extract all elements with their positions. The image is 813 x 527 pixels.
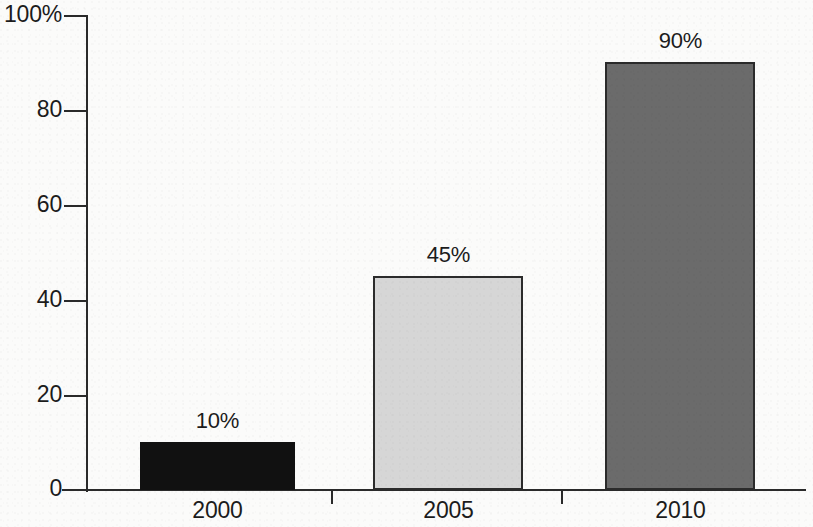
y-tick-20	[64, 395, 86, 397]
y-tick-0	[64, 489, 86, 491]
y-tick-80	[64, 110, 86, 112]
y-tick-label-60: 60	[2, 193, 62, 216]
bar-2005[interactable]	[373, 276, 523, 490]
y-tick-60	[64, 205, 86, 207]
x-tick-separator-2	[561, 491, 563, 504]
y-tick-label-0: 0	[2, 477, 62, 500]
y-tick-label-80: 80	[2, 98, 62, 121]
bar-2000[interactable]	[140, 442, 295, 490]
y-tick-40	[64, 300, 86, 302]
bar-2010[interactable]	[605, 62, 755, 490]
y-tick-100	[64, 15, 86, 17]
bar-label-2005: 45%	[391, 243, 506, 267]
bar-label-2010: 90%	[623, 29, 738, 53]
y-tick-label-40: 40	[2, 288, 62, 311]
y-tick-label-20: 20	[2, 383, 62, 406]
x-tick-label-2000: 2000	[160, 498, 275, 523]
x-tick-label-2010: 2010	[623, 498, 738, 523]
y-tick-label-100: 100%	[2, 3, 62, 26]
bar-label-2000: 10%	[160, 409, 275, 433]
x-tick-label-2005: 2005	[391, 498, 506, 523]
x-tick-separator-1	[331, 491, 333, 504]
y-axis-line	[86, 15, 88, 492]
bar-chart: 100% 80 60 40 20 0 10% 45% 90% 2000 2005…	[0, 0, 813, 527]
